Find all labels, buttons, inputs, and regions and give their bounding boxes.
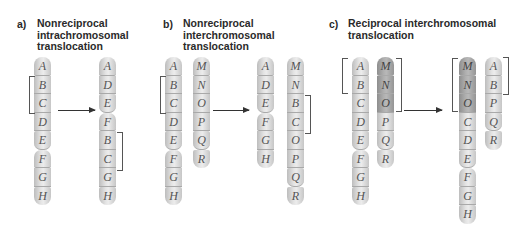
segment: Q <box>287 168 304 187</box>
segment: O <box>193 94 210 113</box>
chromosome-b-before-2: M N O P Q R <box>193 57 210 168</box>
segment: A <box>165 57 182 76</box>
segment: B <box>99 131 116 150</box>
panel-a-title: Nonreciprocal intrachromosomal transloca… <box>37 18 129 53</box>
segment: F <box>34 150 51 169</box>
title-line: translocation <box>37 41 129 53</box>
segment: Q <box>485 113 502 132</box>
segment: M <box>193 57 210 76</box>
segment: D <box>99 76 116 95</box>
segment: P <box>485 94 502 113</box>
segment: D <box>459 131 476 150</box>
segment: M <box>377 57 394 76</box>
panel-c-title: Reciprocal interchromosomal translocatio… <box>348 18 496 41</box>
segment: H <box>257 150 274 169</box>
cropped-caption-text <box>16 0 19 5</box>
chromosome-c-after-2: A B P Q R <box>485 57 502 150</box>
segment: H <box>352 187 369 206</box>
segment: H <box>165 187 182 206</box>
segment: C <box>34 94 51 113</box>
segment: H <box>34 187 51 206</box>
segment: R <box>287 187 304 206</box>
bracket-left <box>342 58 348 94</box>
segment: E <box>352 131 369 150</box>
segment: M <box>287 57 304 76</box>
panel-b-letter: b) <box>163 18 173 30</box>
segment: A <box>485 57 502 76</box>
segment: M <box>459 57 476 76</box>
segment: H <box>459 205 476 224</box>
segment: Q <box>193 131 210 150</box>
bracket-left <box>29 76 35 114</box>
segment: F <box>165 150 182 169</box>
bracket-left <box>452 58 458 112</box>
segment: A <box>34 57 51 76</box>
segment: E <box>34 131 51 150</box>
chromosome-c-after-1: M N O C D E F G H <box>459 57 476 224</box>
segment: H <box>99 187 116 206</box>
segment: O <box>377 94 394 113</box>
chromosome-b-before-1: A B C D E F G H <box>165 57 182 205</box>
segment: F <box>459 168 476 187</box>
segment: B <box>485 76 502 95</box>
segment: R <box>193 150 210 169</box>
segment: G <box>99 168 116 187</box>
arrow-right-icon <box>404 110 442 111</box>
segment: N <box>459 76 476 95</box>
segment: G <box>257 131 274 150</box>
bracket-left <box>160 76 166 114</box>
segment: R <box>485 131 502 150</box>
segment: D <box>165 113 182 132</box>
panel-c-letter: c) <box>329 18 338 30</box>
segment: E <box>257 94 274 113</box>
segment: G <box>459 187 476 206</box>
chromosome-b-after-2: M N B C O P Q R <box>287 57 304 205</box>
segment: B <box>34 76 51 95</box>
segment: G <box>352 168 369 187</box>
segment: R <box>377 150 394 169</box>
segment: E <box>165 131 182 150</box>
title-line: Reciprocal interchromosomal <box>348 18 496 30</box>
chromosome-a-after: A D E F B C G H <box>99 57 116 205</box>
chromosome-a-before: A B C D E F G H <box>34 57 51 205</box>
title-line: Nonreciprocal <box>37 18 129 30</box>
segment: P <box>377 113 394 132</box>
segment: D <box>352 113 369 132</box>
chromosome-c-before-1: A B C D E F G H <box>352 57 369 205</box>
segment: N <box>287 76 304 95</box>
bracket-right <box>305 95 311 134</box>
segment: C <box>165 94 182 113</box>
bracket-right <box>503 57 509 95</box>
segment: P <box>287 150 304 169</box>
segment: F <box>352 150 369 169</box>
segment: D <box>34 113 51 132</box>
arrow-right-icon <box>58 110 95 111</box>
bracket-right <box>396 58 402 112</box>
bracket-right <box>117 132 123 171</box>
title-line: Nonreciprocal <box>183 18 275 30</box>
segment: A <box>257 57 274 76</box>
chromosome-b-after-1: A D E F G H <box>257 57 274 168</box>
segment: N <box>193 76 210 95</box>
segment: O <box>287 131 304 150</box>
segment: C <box>459 113 476 132</box>
arrow-right-icon <box>213 110 249 111</box>
segment: N <box>377 76 394 95</box>
segment: C <box>99 150 116 169</box>
segment: F <box>99 113 116 132</box>
segment: E <box>459 150 476 169</box>
segment: O <box>459 94 476 113</box>
segment: G <box>34 168 51 187</box>
segment: A <box>352 57 369 76</box>
segment: C <box>352 94 369 113</box>
panel-b-title: Nonreciprocal interchromosomal transloca… <box>183 18 275 53</box>
segment: E <box>99 94 116 113</box>
chromosome-c-before-2: M N O P Q R <box>377 57 394 168</box>
segment: A <box>99 57 116 76</box>
segment: G <box>165 168 182 187</box>
segment: Q <box>377 131 394 150</box>
panel-a-letter: a) <box>17 18 26 30</box>
segment: D <box>257 76 274 95</box>
segment: B <box>287 94 304 113</box>
segment: P <box>193 113 210 132</box>
